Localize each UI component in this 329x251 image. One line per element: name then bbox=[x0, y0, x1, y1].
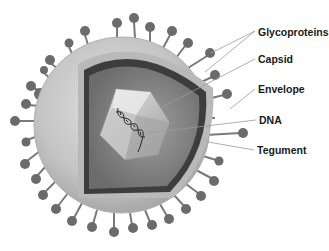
label-capsid: Capsid bbox=[258, 53, 293, 65]
label-dna: DNA bbox=[259, 114, 282, 126]
label-glycoproteins: Glycoproteins bbox=[258, 26, 329, 38]
label-envelope: Envelope bbox=[258, 83, 305, 95]
label-tegument: Tegument bbox=[257, 144, 306, 156]
